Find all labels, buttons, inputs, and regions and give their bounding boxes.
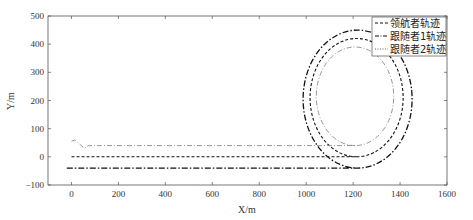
x-axis-label: X/m bbox=[238, 204, 256, 215]
x-tick-label: 800 bbox=[252, 189, 266, 199]
y-tick-label: −100 bbox=[25, 180, 44, 190]
follower1-trajectory bbox=[67, 30, 412, 168]
x-tick-label: 1000 bbox=[297, 189, 316, 199]
x-tick-label: 400 bbox=[159, 189, 173, 199]
y-tick-label: 0 bbox=[40, 152, 45, 162]
y-axis-label: Y/m bbox=[5, 92, 16, 110]
x-tick-label: 600 bbox=[206, 189, 220, 199]
plot-lines bbox=[67, 30, 412, 168]
x-tick-label: 1600 bbox=[438, 189, 457, 199]
y-tick-label: 400 bbox=[31, 39, 45, 49]
x-tick-label: 200 bbox=[112, 189, 126, 199]
trajectory-chart: 02004006008001000120014001600−1000100200… bbox=[0, 0, 473, 220]
x-tick-label: 1200 bbox=[344, 189, 363, 199]
y-tick-label: 300 bbox=[31, 67, 45, 77]
legend-label-follower1: 跟随者1轨迹 bbox=[390, 30, 446, 42]
x-tick-label: 0 bbox=[69, 189, 74, 199]
y-tick-label: 200 bbox=[31, 96, 45, 106]
leader-trajectory bbox=[72, 39, 404, 157]
x-tick-label: 1400 bbox=[391, 189, 410, 199]
y-tick-label: 100 bbox=[31, 124, 45, 134]
legend: 领航者轨迹 跟随者1轨迹 跟随者2轨迹 bbox=[372, 17, 446, 56]
legend-label-leader: 领航者轨迹 bbox=[390, 17, 440, 29]
legend-label-follower2: 跟随者2轨迹 bbox=[390, 43, 446, 55]
y-tick-label: 500 bbox=[31, 11, 45, 21]
follower2-trajectory bbox=[72, 47, 394, 148]
